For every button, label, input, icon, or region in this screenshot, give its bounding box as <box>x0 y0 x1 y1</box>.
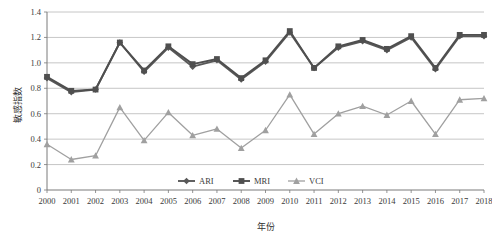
data-point-mri <box>384 46 390 52</box>
legend-marker-ari <box>183 178 190 185</box>
x-axis-tick-label: 2016 <box>427 196 444 206</box>
x-axis-tick-label: 2003 <box>111 196 128 206</box>
line-chart-plot: 00.20.40.60.81.01.21.4200020012002200320… <box>0 0 492 243</box>
x-axis-tick-label: 2018 <box>476 196 492 206</box>
x-axis-tick-label: 2017 <box>451 196 468 206</box>
data-point-vci <box>214 126 221 132</box>
x-axis-tick-label: 2014 <box>378 196 396 206</box>
x-axis-tick-label: 2001 <box>63 196 80 206</box>
data-point-mri <box>360 37 366 43</box>
data-point-mri <box>117 40 123 46</box>
y-axis-tick-label: 1.0 <box>30 58 41 68</box>
data-point-mri <box>433 65 439 71</box>
data-point-mri <box>238 75 244 81</box>
x-axis-tick-label: 2009 <box>257 196 274 206</box>
y-axis-tick-label: 0 <box>37 185 41 195</box>
x-axis-tick-label: 2000 <box>39 196 56 206</box>
data-point-vci <box>165 109 172 115</box>
y-axis-tick-label: 0.2 <box>30 160 41 170</box>
data-point-mri <box>335 43 341 49</box>
data-point-mri <box>214 56 220 62</box>
data-point-mri <box>287 28 293 34</box>
data-point-mri <box>311 65 317 71</box>
data-point-mri <box>93 87 99 93</box>
y-axis-tick-label: 0.8 <box>30 83 41 93</box>
data-point-mri <box>408 33 414 39</box>
x-axis-tick-label: 2004 <box>136 196 154 206</box>
chart-container: 00.20.40.60.81.01.21.4200020012002200320… <box>0 0 492 243</box>
data-point-mri <box>165 43 171 49</box>
chart-legend: ARIMRIVCI <box>178 176 324 186</box>
legend-label-vci: VCI <box>309 176 324 186</box>
y-axis-tick-label: 1.2 <box>30 32 41 42</box>
y-axis-title: 敏感指数 <box>12 87 23 123</box>
x-axis-tick-label: 2008 <box>233 196 250 206</box>
x-axis-tick-label: 2006 <box>184 196 201 206</box>
data-point-vci <box>44 141 51 147</box>
legend-label-ari: ARI <box>199 176 214 186</box>
x-axis-tick-label: 2011 <box>306 196 323 206</box>
data-point-mri <box>263 57 269 63</box>
data-point-vci <box>116 104 123 110</box>
data-point-vci <box>286 91 293 97</box>
y-axis-tick-label: 0.6 <box>30 109 41 119</box>
x-axis-title: 年份 <box>257 221 275 232</box>
x-axis-tick-label: 2010 <box>281 196 298 206</box>
data-point-mri <box>190 61 196 67</box>
y-axis-tick-label: 0.4 <box>30 134 41 144</box>
data-point-mri <box>44 74 50 80</box>
x-axis-tick-label: 2015 <box>403 196 420 206</box>
legend-marker-mri <box>239 178 245 184</box>
data-point-vci <box>359 103 366 109</box>
x-axis-tick-label: 2005 <box>160 196 177 206</box>
legend-label-mri: MRI <box>254 176 270 186</box>
x-axis-tick-label: 2002 <box>87 196 104 206</box>
x-axis-tick-label: 2007 <box>208 196 225 206</box>
data-point-vci <box>408 98 415 104</box>
data-point-mri <box>68 88 74 94</box>
data-point-mri <box>481 32 487 38</box>
x-axis-tick-label: 2013 <box>354 196 371 206</box>
y-axis-tick-label: 1.4 <box>30 7 41 17</box>
x-axis-tick-label: 2012 <box>330 196 347 206</box>
data-point-mri <box>141 68 147 74</box>
data-point-mri <box>457 32 463 38</box>
